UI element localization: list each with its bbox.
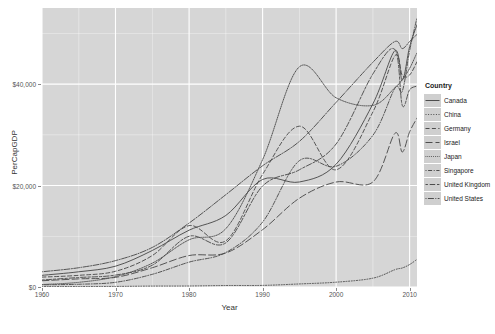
legend-item-list: CanadaChinaGermanyIsraelJapanSingaporeUn… (424, 93, 494, 205)
legend-key-israel-icon (424, 136, 441, 149)
x-tick-label: 1980 (182, 291, 196, 298)
legend-item-label: Israel (444, 139, 460, 146)
x-tick-label: 1970 (108, 291, 122, 298)
legend-item-label: United States (444, 195, 483, 202)
plot-panel (42, 8, 417, 287)
x-tick-mark (116, 288, 117, 291)
chart-root: $0$20,000$40,000 19601970198019902000201… (0, 0, 495, 334)
x-tick-mark (410, 288, 411, 291)
x-tick-mark (336, 288, 337, 291)
legend-key-canada-icon (424, 94, 441, 107)
legend-item-canada[interactable]: Canada (424, 93, 494, 107)
legend-key-japan-icon (424, 150, 441, 163)
legend-key-singapore-icon (424, 164, 441, 177)
y-tick-label: $0 (29, 284, 36, 291)
x-tick-label: 1960 (35, 291, 49, 298)
legend-item-label: United Kingdom (444, 181, 490, 188)
legend-item-united-kingdom[interactable]: United Kingdom (424, 177, 494, 191)
y-tick-label: $40,000 (13, 81, 37, 88)
y-tick-mark (38, 186, 41, 187)
legend-key-germany-icon (424, 122, 441, 135)
plot-lines (42, 8, 417, 287)
legend-key-china-icon (424, 108, 441, 121)
series-line-israel (42, 118, 417, 281)
x-tick-mark (42, 288, 43, 291)
y-axis-title: PerCapGDP (10, 113, 19, 193)
legend-key-united-kingdom-icon (424, 178, 441, 191)
x-tick-label: 2010 (402, 291, 416, 298)
legend-item-label: China (444, 111, 461, 118)
legend-item-japan[interactable]: Japan (424, 149, 494, 163)
legend-item-label: Germany (444, 125, 471, 132)
x-tick-label: 2000 (329, 291, 343, 298)
x-axis-title: Year (42, 303, 417, 312)
legend-item-label: Canada (444, 97, 467, 104)
series-line-germany (42, 55, 417, 277)
y-tick-mark (38, 287, 41, 288)
legend-title: Country (424, 82, 494, 89)
series-line-united-kingdom (42, 48, 417, 280)
legend-item-china[interactable]: China (424, 107, 494, 121)
x-tick-mark (263, 288, 264, 291)
series-line-china (42, 259, 417, 286)
y-tick-mark (38, 84, 41, 85)
series-line-singapore (42, 18, 417, 285)
legend: Country CanadaChinaGermanyIsraelJapanSin… (424, 82, 494, 205)
legend-item-label: Japan (444, 153, 462, 160)
series-line-japan (42, 53, 417, 285)
legend-item-label: Singapore (444, 167, 474, 174)
legend-item-israel[interactable]: Israel (424, 135, 494, 149)
legend-item-singapore[interactable]: Singapore (424, 163, 494, 177)
x-tick-label: 1990 (255, 291, 269, 298)
legend-item-united-states[interactable]: United States (424, 191, 494, 205)
x-tick-mark (189, 288, 190, 291)
legend-item-germany[interactable]: Germany (424, 121, 494, 135)
legend-key-united-states-icon (424, 192, 441, 205)
